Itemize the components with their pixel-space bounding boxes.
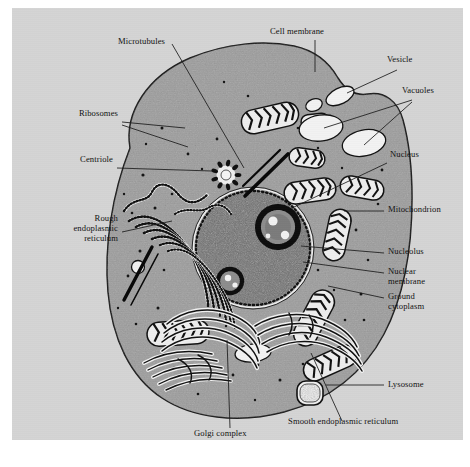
label-nuclear-membrane: Nuclear membrane <box>388 266 425 286</box>
label-mitochondrion: Mitochondrion <box>388 204 441 214</box>
label-rough-er: Rough endoplasmic reticulum <box>16 213 118 244</box>
leader-vesicle <box>347 70 397 93</box>
label-nucleolus: Nucleolus <box>388 246 424 256</box>
diagram-panel: Microtubules Cell membrane Vesicle Vacuo… <box>12 8 463 440</box>
label-vacuoles: Vacuoles <box>402 85 434 95</box>
label-nucleus: Nucleus <box>390 149 419 159</box>
label-golgi-complex: Golgi complex <box>194 428 247 438</box>
label-lysosome: Lysosome <box>388 379 424 389</box>
label-ground-cytoplasm: Ground cytoplasm <box>388 291 424 311</box>
nucleolus-shape <box>258 207 298 247</box>
label-microtubules: Microtubules <box>118 36 165 46</box>
label-ribosomes: Ribosomes <box>22 108 118 118</box>
label-centriole: Centriole <box>22 154 113 164</box>
label-cell-membrane: Cell membrane <box>270 26 324 36</box>
lysosome-shape <box>297 381 323 405</box>
figure-page: Microtubules Cell membrane Vesicle Vacuo… <box>0 0 470 467</box>
label-vesicle: Vesicle <box>387 54 413 64</box>
label-smooth-er: Smooth endoplasmic reticulum <box>288 416 398 426</box>
